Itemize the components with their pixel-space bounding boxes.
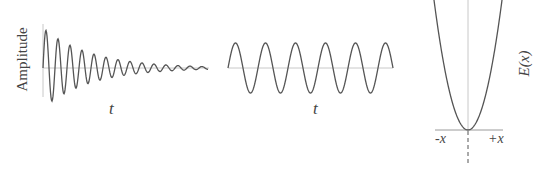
time-axis-label-1: t [109,99,114,119]
amplitude-axis-label: Amplitude [14,28,31,92]
time-axis-label-2: t [313,99,318,119]
pos-x-label: +x [488,131,504,147]
damped-wave-curve [43,30,208,101]
panel-undamped-oscillation [228,43,393,93]
neg-x-label: -x [435,131,446,147]
physics-figure: Amplitude t t -x +x E(x) [0,0,542,170]
panel-damped-oscillation [43,24,209,101]
figure-canvas [0,0,542,170]
energy-axis-label: E(x) [516,42,533,86]
